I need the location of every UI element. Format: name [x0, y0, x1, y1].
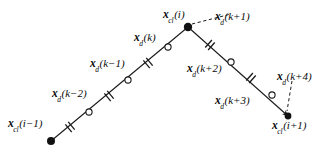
label-subscript: d [220, 102, 224, 111]
label-argument: (k) [144, 31, 156, 43]
label-x-d-k-plus-2: xd(k+2) [187, 63, 222, 77]
label-x-d-k-plus-1: xd(k+1) [215, 11, 250, 25]
label-subscript: d [220, 18, 224, 27]
filled-dot-nodes [47, 23, 291, 145]
label-subscript: d [192, 70, 196, 79]
label-argument: (i+1) [283, 119, 306, 131]
label-x-cl-i: xcl(i) [163, 9, 185, 23]
label-x-d-k-plus-3: xd(k+3) [215, 95, 250, 109]
waypoint-x-d-k-plus-3 [269, 92, 275, 98]
hash-tick-3 [143, 58, 152, 68]
label-x-d-k-plus-4: xd(k+4) [277, 71, 312, 85]
label-x-d-k-minus-1: xd(k−1) [90, 58, 125, 72]
label-argument: (k+2) [197, 62, 222, 74]
label-subscript: d [139, 39, 143, 48]
leader-line-x-d-k-plus-4 [287, 81, 292, 111]
label-subscript: cl [168, 16, 173, 25]
waypoint-x-d-k-plus-2 [228, 59, 234, 65]
waypoint-x-d-k [165, 44, 171, 50]
hash-tick-1 [65, 122, 74, 132]
label-subscript: cl [13, 125, 18, 134]
waypoint-x-d-k-minus-2 [86, 109, 92, 115]
hash-tick-4 [205, 40, 214, 50]
label-argument: (k−1) [100, 57, 125, 69]
waypoint-x-d-k-minus-1 [125, 77, 131, 83]
label-argument: (k+3) [225, 94, 250, 106]
label-subscript: d [57, 95, 61, 104]
label-argument: (i−1) [19, 117, 42, 129]
node-x-cl-i-minus-1 [47, 137, 55, 145]
label-subscript: d [95, 65, 99, 74]
path-discretization-figure: xcl(i−1) xd(k−2) xd(k−1) xd(k) xcl(i) xd… [0, 0, 333, 153]
label-argument: (k+1) [225, 10, 250, 22]
label-x-d-k: xd(k) [134, 32, 156, 46]
label-x-d-k-minus-2: xd(k−2) [52, 88, 87, 102]
label-argument: (k+4) [287, 70, 312, 82]
hash-tick-2 [104, 91, 113, 101]
node-x-cl-i [184, 23, 192, 31]
label-x-cl-i-plus-1: xcl(i+1) [272, 120, 306, 134]
label-argument: (i) [174, 8, 184, 20]
label-subscript: d [282, 78, 286, 87]
hash-tick-5 [246, 73, 255, 83]
label-subscript: cl [277, 127, 282, 136]
label-x-cl-i-minus-1: xcl(i−1) [8, 118, 42, 132]
label-argument: (k−2) [62, 87, 87, 99]
